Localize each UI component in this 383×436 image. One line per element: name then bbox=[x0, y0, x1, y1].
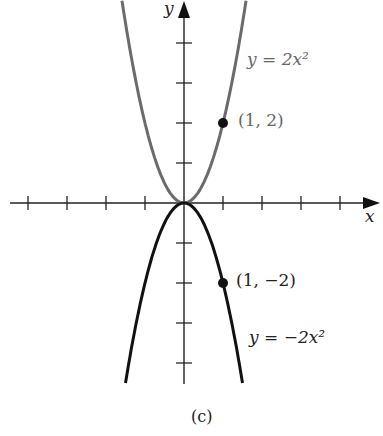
lower-point-label: (1, −2) bbox=[236, 270, 296, 290]
upper-curve-equation: y = 2x² bbox=[247, 49, 309, 69]
figure: y x y = 2x² (1, 2) (1, −2) y = −2x² (c) bbox=[0, 0, 383, 436]
plot-area bbox=[0, 0, 383, 436]
figure-caption: (c) bbox=[191, 407, 212, 426]
x-axis-label: x bbox=[365, 206, 375, 226]
lower-curve-equation: y = −2x² bbox=[249, 327, 325, 347]
y-axis-label: y bbox=[164, 0, 174, 18]
upper-point-label: (1, 2) bbox=[238, 110, 284, 130]
